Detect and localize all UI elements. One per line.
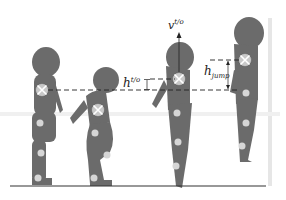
joint-knee <box>38 150 45 157</box>
joint-knee <box>243 120 250 127</box>
figure-crouch <box>70 67 119 186</box>
joint-knee <box>104 152 111 159</box>
joint-ankle <box>173 163 180 170</box>
joint-hip <box>37 120 44 127</box>
jump-diagram <box>0 0 286 200</box>
joint-ankle <box>35 175 42 182</box>
joint-ankle <box>91 175 98 182</box>
joint-hip <box>243 90 250 97</box>
h-jump-label: hjump <box>204 64 230 80</box>
joint-hip <box>92 130 99 137</box>
joint-knee <box>175 139 182 146</box>
frame-shadow <box>268 18 272 186</box>
h-take-off-label: ht/o <box>123 76 140 90</box>
v-take-off-label: vt/o <box>168 18 184 32</box>
arrow-head-icon <box>177 32 182 38</box>
joint-hip <box>174 110 181 117</box>
joint-ankle <box>239 143 246 150</box>
figure-apex <box>230 17 264 162</box>
arrow-down-icon <box>226 85 230 89</box>
